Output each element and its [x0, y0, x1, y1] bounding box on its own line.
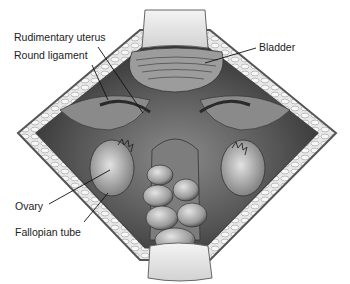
bottom-retractor [148, 243, 212, 281]
label-rudimentary-uterus: Rudimentary uterus [14, 32, 106, 43]
label-fallopian-tube: Fallopian tube [15, 227, 81, 238]
label-ovary: Ovary [15, 201, 43, 212]
label-round-ligament: Round ligament [14, 50, 88, 61]
top-retractor [142, 10, 208, 48]
left-ovary [90, 140, 134, 196]
label-bladder: Bladder [259, 42, 295, 53]
